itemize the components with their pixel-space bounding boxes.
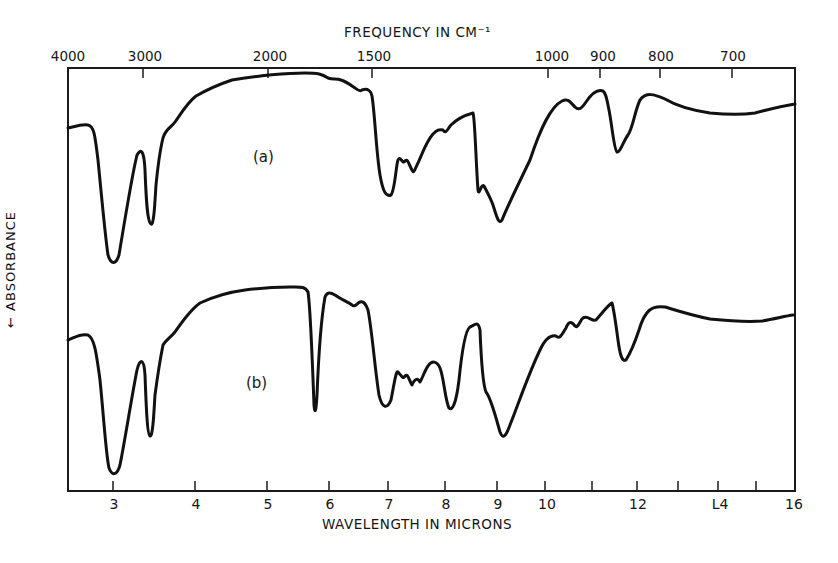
bottom-tick-7: 7 (385, 496, 394, 512)
bottom-tick-3: 3 (110, 496, 119, 512)
top-tick-4000: 4000 (51, 48, 85, 64)
x-axis-title: WAVELENGTH IN MICRONS (322, 516, 512, 532)
bottom-tick-4: 4 (192, 496, 201, 512)
top-tick-700: 700 (720, 48, 746, 64)
top-axis-title: FREQUENCY IN CM⁻¹ (344, 24, 491, 40)
top-tick-800: 800 (648, 48, 674, 64)
y-axis-title-text: ← ABSORBANCE (3, 211, 18, 328)
top-tick-900: 900 (590, 48, 616, 64)
top-tick-3000: 3000 (128, 48, 162, 64)
bottom-tick-14: L4 (712, 496, 729, 512)
top-tick-1000: 1000 (535, 48, 569, 64)
bottom-tick-9: 9 (494, 496, 503, 512)
spectrum-curve-a (68, 73, 795, 263)
spectrum-plot (0, 0, 838, 563)
curve-label-a: (a) (253, 148, 274, 166)
curve-label-b: (b) (246, 374, 267, 392)
top-tick-1500: 1500 (357, 48, 391, 64)
bottom-tick-12: 12 (629, 496, 647, 512)
bottom-axis-ticks (113, 481, 756, 491)
spectrum-curve-b (68, 287, 793, 474)
plot-frame (68, 68, 795, 491)
top-tick-2000: 2000 (253, 48, 287, 64)
bottom-tick-10: 10 (538, 496, 556, 512)
bottom-tick-16: 16 (785, 496, 803, 512)
top-axis-ticks (143, 68, 732, 78)
bottom-tick-8: 8 (442, 496, 451, 512)
bottom-tick-5: 5 (264, 496, 273, 512)
y-axis-title: ← ABSORBANCE (10, 200, 30, 390)
bottom-tick-6: 6 (326, 496, 335, 512)
